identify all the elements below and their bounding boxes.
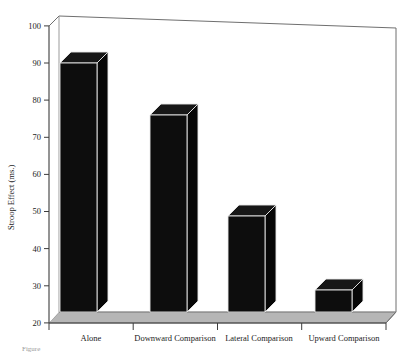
y-tick-60: 60 — [33, 169, 50, 179]
figure-caption-stub: Figure — [22, 345, 40, 352]
bar-side-face — [265, 205, 276, 312]
x-tick-label-downward-comparison: Downward Comparison — [134, 333, 216, 343]
bar-side-face — [187, 104, 198, 312]
bar-lateral-comparison[interactable] — [228, 205, 276, 312]
bar-upward-comparison[interactable] — [315, 279, 363, 312]
y-tick-90: 90 — [33, 58, 50, 68]
y-tick-label: 20 — [33, 318, 42, 328]
y-tick-40: 40 — [33, 244, 50, 254]
back-wall — [59, 16, 396, 318]
x-axis-labels: Alone Downward Comparison Lateral Compar… — [81, 333, 381, 343]
y-tick-30: 30 — [33, 281, 50, 291]
y-tick-label: 90 — [33, 58, 42, 68]
bar-front-face — [60, 63, 97, 312]
y-tick-label: 50 — [33, 206, 42, 216]
bar-side-face — [97, 52, 108, 312]
y-axis-ticks: 100 90 80 70 60 50 — [28, 21, 49, 328]
bar-front-face — [228, 216, 265, 312]
y-tick-label: 40 — [33, 244, 42, 254]
y-tick-80: 80 — [33, 95, 50, 105]
y-tick-50: 50 — [33, 206, 50, 216]
y-tick-label: 30 — [33, 281, 42, 291]
y-tick-70: 70 — [33, 132, 50, 142]
y-tick-label: 60 — [33, 169, 42, 179]
bar-front-face — [150, 115, 187, 312]
y-tick-label: 80 — [33, 95, 42, 105]
y-axis-title: Stroop Effect (ms.) — [6, 165, 16, 230]
y-tick-20: 20 — [33, 318, 50, 328]
bar-alone[interactable] — [60, 52, 108, 312]
bar-front-face — [315, 290, 352, 312]
x-axis-ticks — [49, 323, 386, 330]
y-tick-100: 100 — [28, 21, 49, 31]
floor-plane — [49, 312, 396, 323]
y-tick-label: 100 — [28, 21, 41, 31]
bar-chart-3d: 100 90 80 70 60 50 — [0, 0, 416, 352]
y-tick-label: 70 — [33, 132, 42, 142]
x-tick-label-alone: Alone — [81, 333, 102, 343]
bar-downward-comparison[interactable] — [150, 104, 198, 312]
x-tick-label-upward-comparison: Upward Comparison — [308, 333, 380, 343]
left-wall — [49, 16, 59, 323]
x-tick-label-lateral-comparison: Lateral Comparison — [225, 333, 293, 343]
chart-container: 100 90 80 70 60 50 — [0, 0, 416, 352]
